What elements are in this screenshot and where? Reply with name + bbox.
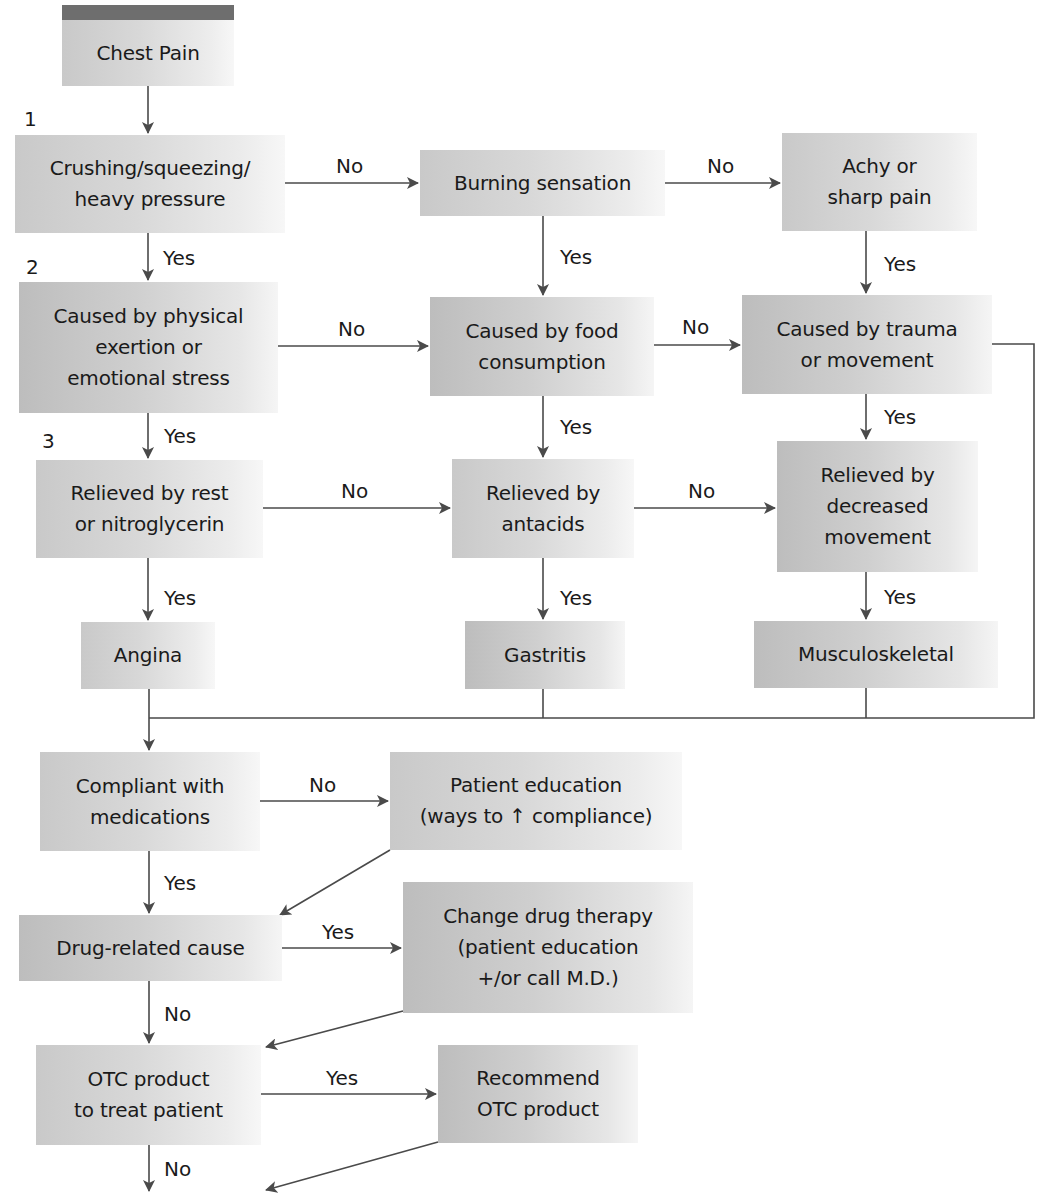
edge-label-trauma-yes: Yes xyxy=(884,406,916,428)
node-musculoskeletal: Musculoskeletal xyxy=(754,621,998,688)
step-number-1: 1 xyxy=(24,108,37,130)
edge-label-compliant-no: No xyxy=(309,774,336,796)
node-caused-by-trauma: Caused by trauma or movement xyxy=(742,295,992,394)
edge-label-antacids-yes: Yes xyxy=(560,587,592,609)
edge-label-antacids-no: No xyxy=(688,480,715,502)
edge-label-food-yes: Yes xyxy=(560,416,592,438)
edge-label-compliant-yes: Yes xyxy=(164,872,196,894)
edge-label-drug-no: No xyxy=(164,1003,191,1025)
node-change-drug-therapy: Change drug therapy (patient education +… xyxy=(403,882,693,1013)
step-number-2: 2 xyxy=(26,256,39,278)
edge-label-drug-yes: Yes xyxy=(322,921,354,943)
node-recommend-otc: Recommend OTC product xyxy=(438,1045,638,1143)
node-caused-by-exertion: Caused by physical exertion or emotional… xyxy=(19,282,278,413)
edge-label-exertion-yes: Yes xyxy=(164,425,196,447)
node-caused-by-food: Caused by food consumption xyxy=(430,297,654,396)
node-relieved-by-rest: Relieved by rest or nitroglycerin xyxy=(36,460,263,558)
edge-label-achy-yes: Yes xyxy=(884,253,916,275)
edge-label-rest-no: No xyxy=(341,480,368,502)
edge-label-movement-yes: Yes xyxy=(884,586,916,608)
edge-label-otc-yes: Yes xyxy=(326,1067,358,1089)
edge-label-exertion-no: No xyxy=(338,318,365,340)
node-angina: Angina xyxy=(81,622,215,689)
node-drug-related-cause: Drug-related cause xyxy=(19,915,282,981)
node-crushing-pressure: Crushing/squeezing/ heavy pressure xyxy=(15,135,285,233)
node-gastritis: Gastritis xyxy=(465,621,625,689)
step-number-3: 3 xyxy=(42,430,55,452)
title-header-bar xyxy=(62,5,234,20)
edge-label-otc-no: No xyxy=(164,1158,191,1180)
node-compliant-with-medications: Compliant with medications xyxy=(40,752,260,851)
edge-label-rest-yes: Yes xyxy=(164,587,196,609)
node-burning-sensation: Burning sensation xyxy=(420,150,665,216)
edge-label-food-no: No xyxy=(682,316,709,338)
edge-label-crushing-yes: Yes xyxy=(163,247,195,269)
node-otc-product: OTC product to treat patient xyxy=(36,1045,261,1145)
edge-label-burning-yes: Yes xyxy=(560,246,592,268)
node-achy-sharp-pain: Achy or sharp pain xyxy=(782,133,977,231)
edge-label-burning-no: No xyxy=(707,155,734,177)
node-relieved-by-antacids: Relieved by antacids xyxy=(452,459,634,558)
node-chest-pain: Chest Pain xyxy=(62,20,234,86)
node-patient-education: Patient education (ways to ↑ compliance) xyxy=(390,752,682,850)
edge-label-crushing-no: No xyxy=(336,155,363,177)
node-relieved-by-decreased-movement: Relieved by decreased movement xyxy=(777,441,978,572)
